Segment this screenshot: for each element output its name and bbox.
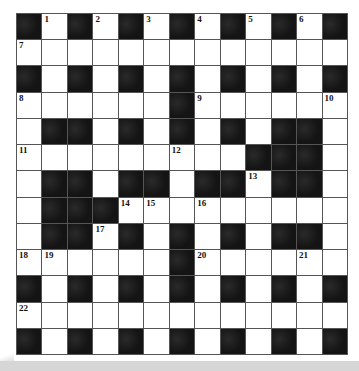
white-cell[interactable]: [144, 224, 168, 249]
white-cell[interactable]: [68, 250, 92, 275]
white-cell[interactable]: [323, 119, 347, 144]
white-cell[interactable]: [68, 303, 92, 328]
white-cell[interactable]: [93, 145, 117, 170]
white-cell[interactable]: [246, 250, 270, 275]
white-cell[interactable]: [297, 303, 321, 328]
white-cell[interactable]: [323, 171, 347, 196]
white-cell[interactable]: 11: [17, 145, 41, 170]
white-cell[interactable]: [195, 66, 219, 91]
white-cell[interactable]: 2: [93, 14, 117, 39]
white-cell[interactable]: [144, 145, 168, 170]
white-cell[interactable]: [272, 303, 296, 328]
white-cell[interactable]: [195, 145, 219, 170]
white-cell[interactable]: [221, 198, 245, 223]
white-cell[interactable]: [246, 198, 270, 223]
white-cell[interactable]: [297, 198, 321, 223]
white-cell[interactable]: [93, 303, 117, 328]
white-cell[interactable]: [93, 66, 117, 91]
white-cell[interactable]: [144, 66, 168, 91]
white-cell[interactable]: 6: [297, 14, 321, 39]
white-cell[interactable]: [144, 40, 168, 65]
white-cell[interactable]: [195, 329, 219, 354]
white-cell[interactable]: 20: [195, 250, 219, 275]
white-cell[interactable]: 13: [246, 171, 270, 196]
white-cell[interactable]: [170, 40, 194, 65]
white-cell[interactable]: 9: [195, 93, 219, 118]
white-cell[interactable]: [323, 198, 347, 223]
white-cell[interactable]: [246, 329, 270, 354]
white-cell[interactable]: [93, 171, 117, 196]
white-cell[interactable]: [221, 93, 245, 118]
white-cell[interactable]: [323, 40, 347, 65]
white-cell[interactable]: [195, 40, 219, 65]
white-cell[interactable]: [297, 276, 321, 301]
white-cell[interactable]: [42, 145, 66, 170]
white-cell[interactable]: [195, 303, 219, 328]
white-cell[interactable]: [144, 250, 168, 275]
white-cell[interactable]: [246, 93, 270, 118]
white-cell[interactable]: [144, 93, 168, 118]
white-cell[interactable]: [195, 276, 219, 301]
white-cell[interactable]: [42, 329, 66, 354]
white-cell[interactable]: [17, 171, 41, 196]
white-cell[interactable]: 15: [144, 198, 168, 223]
white-cell[interactable]: 14: [119, 198, 143, 223]
white-cell[interactable]: [246, 40, 270, 65]
white-cell[interactable]: 8: [17, 93, 41, 118]
white-cell[interactable]: 18: [17, 250, 41, 275]
white-cell[interactable]: 4: [195, 14, 219, 39]
white-cell[interactable]: [323, 303, 347, 328]
white-cell[interactable]: [246, 224, 270, 249]
white-cell[interactable]: [119, 250, 143, 275]
white-cell[interactable]: [221, 250, 245, 275]
white-cell[interactable]: [297, 329, 321, 354]
white-cell[interactable]: [17, 198, 41, 223]
white-cell[interactable]: [246, 119, 270, 144]
white-cell[interactable]: [93, 93, 117, 118]
white-cell[interactable]: [42, 66, 66, 91]
white-cell[interactable]: [144, 119, 168, 144]
white-cell[interactable]: [17, 224, 41, 249]
white-cell[interactable]: [195, 224, 219, 249]
white-cell[interactable]: [144, 303, 168, 328]
white-cell[interactable]: 21: [297, 250, 321, 275]
white-cell[interactable]: [42, 276, 66, 301]
white-cell[interactable]: 7: [17, 40, 41, 65]
white-cell[interactable]: [119, 303, 143, 328]
white-cell[interactable]: [221, 145, 245, 170]
white-cell[interactable]: [297, 66, 321, 91]
white-cell[interactable]: 16: [195, 198, 219, 223]
white-cell[interactable]: [144, 329, 168, 354]
white-cell[interactable]: [93, 40, 117, 65]
white-cell[interactable]: [119, 40, 143, 65]
white-cell[interactable]: [68, 40, 92, 65]
white-cell[interactable]: [119, 145, 143, 170]
white-cell[interactable]: [93, 119, 117, 144]
white-cell[interactable]: [246, 276, 270, 301]
white-cell[interactable]: [272, 40, 296, 65]
white-cell[interactable]: [119, 93, 143, 118]
white-cell[interactable]: [144, 276, 168, 301]
white-cell[interactable]: [272, 198, 296, 223]
white-cell[interactable]: [221, 303, 245, 328]
white-cell[interactable]: 22: [17, 303, 41, 328]
white-cell[interactable]: [221, 40, 245, 65]
white-cell[interactable]: [93, 276, 117, 301]
white-cell[interactable]: [170, 303, 194, 328]
white-cell[interactable]: [17, 119, 41, 144]
white-cell[interactable]: [246, 303, 270, 328]
white-cell[interactable]: [246, 66, 270, 91]
white-cell[interactable]: [42, 40, 66, 65]
white-cell[interactable]: 3: [144, 14, 168, 39]
white-cell[interactable]: [42, 93, 66, 118]
white-cell[interactable]: 5: [246, 14, 270, 39]
white-cell[interactable]: [93, 250, 117, 275]
white-cell[interactable]: [272, 250, 296, 275]
white-cell[interactable]: [297, 93, 321, 118]
white-cell[interactable]: [195, 119, 219, 144]
white-cell[interactable]: [272, 93, 296, 118]
white-cell[interactable]: [323, 145, 347, 170]
white-cell[interactable]: [93, 329, 117, 354]
white-cell[interactable]: [42, 303, 66, 328]
white-cell[interactable]: [323, 250, 347, 275]
